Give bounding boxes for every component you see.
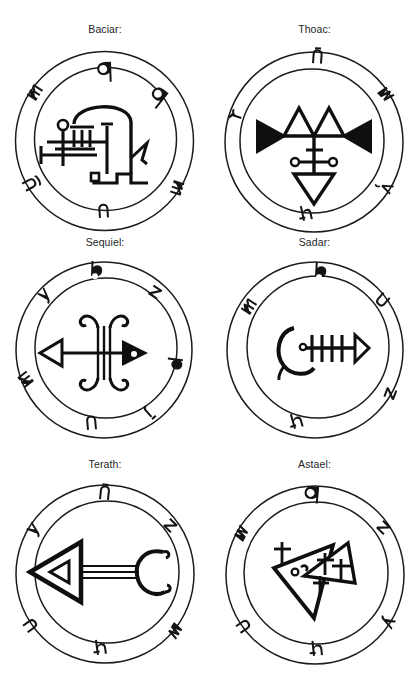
seal-drawing-sadar — [222, 258, 408, 441]
astael-svg — [221, 480, 409, 670]
seal-card-baciar: Baciar: — [0, 0, 210, 228]
ring-glyph-m — [170, 180, 184, 196]
sadar-eye — [299, 344, 305, 350]
seal-title-thoac: Thoac: — [298, 23, 331, 35]
astael-eye — [291, 569, 298, 576]
ring-glyph-m — [240, 298, 256, 315]
baciar-svg — [11, 46, 199, 236]
ring-glyph-b — [91, 261, 103, 279]
ring-glyph-n — [312, 47, 323, 64]
ring-glyph-set — [240, 262, 396, 430]
thoac-dot-left — [291, 158, 299, 166]
ring-glyph-p — [167, 358, 183, 371]
ring-glyph-h — [308, 640, 322, 656]
seal-drawing-baciar — [11, 46, 199, 236]
seal-title-terath: Terath: — [89, 458, 122, 470]
thoac-svg — [220, 46, 410, 238]
sigil-sheet: Baciar: — [0, 0, 419, 690]
ring-glyph-w — [167, 622, 184, 640]
thoac-dot-right — [329, 158, 337, 166]
sigil-grid: Baciar: — [0, 0, 419, 690]
seal-title-astael: Astael: — [298, 458, 331, 470]
ring-glyph-y — [26, 521, 44, 538]
ring-glyph-u — [22, 175, 43, 193]
seal-card-sequiel: Sequiel: — [0, 228, 210, 445]
seal-drawing-astael — [221, 480, 409, 670]
seal-drawing-sequiel — [12, 258, 198, 442]
ring-glyph-j — [142, 405, 156, 420]
sequiel-left-arrow — [40, 340, 62, 366]
ring-glyph-q — [97, 62, 112, 82]
ring-glyph-z — [383, 387, 397, 400]
outer-ring — [227, 262, 403, 438]
seal-title-sequiel: Sequiel: — [86, 236, 125, 248]
baciar-square — [91, 173, 99, 181]
seal-drawing-thoac — [220, 46, 410, 238]
seal-title-sadar: Sadar: — [299, 236, 331, 248]
sadar-center-figure — [278, 328, 368, 380]
ring-glyph-v — [373, 178, 394, 195]
sequiel-right-arrow-dot — [131, 351, 137, 357]
baciar-center-figure — [41, 107, 148, 183]
seal-title-baciar: Baciar: — [88, 23, 121, 35]
seal-drawing-terath — [11, 480, 199, 668]
thoac-center-figure — [256, 108, 372, 204]
astael-center-figure — [274, 542, 355, 618]
terath-center-figure — [30, 542, 170, 602]
seal-card-terath: Terath: — [0, 445, 210, 690]
ring-glyph-b — [314, 262, 326, 281]
ring-glyph-z — [148, 285, 162, 300]
ring-glyph-q2 — [145, 85, 168, 109]
ring-glyph-set — [22, 62, 185, 218]
seal-card-sadar: Sadar: — [210, 228, 419, 445]
seal-card-thoac: Thoac: — [210, 0, 419, 228]
ring-glyph-w — [377, 85, 395, 103]
terath-svg — [11, 480, 199, 668]
ring-glyph-q — [303, 485, 318, 503]
sequiel-center-figure — [40, 316, 148, 390]
sadar-svg — [222, 258, 408, 441]
baciar-circle-terminal — [58, 120, 68, 130]
ring-glyph-z — [376, 520, 391, 535]
sequiel-svg — [12, 258, 198, 442]
seal-card-astael: Astael: — [210, 445, 419, 690]
